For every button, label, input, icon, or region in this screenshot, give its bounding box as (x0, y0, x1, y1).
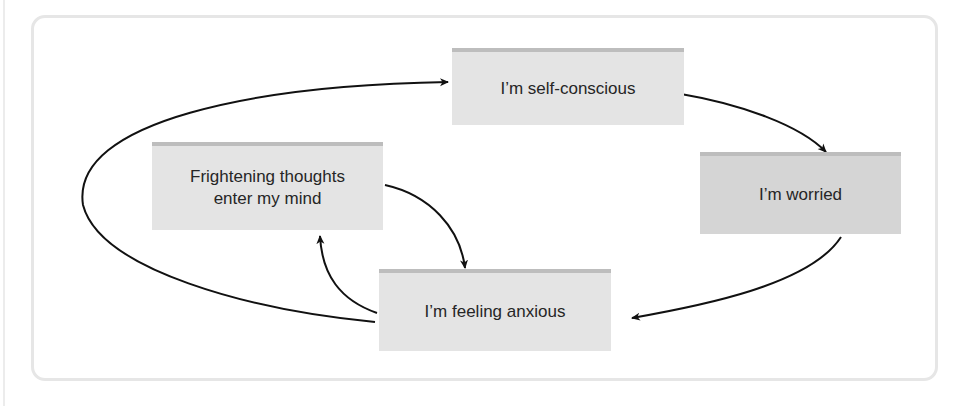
node-feeling-anxious: I’m feeling anxious (379, 269, 611, 351)
arrow-self-conscious-to-worried (681, 94, 826, 152)
arrow-worried-to-anxious (632, 237, 841, 318)
node-label: I’m worried (759, 184, 842, 206)
node-self-conscious: I’m self-conscious (452, 48, 684, 125)
node-label: I’m self-conscious (500, 78, 635, 100)
node-worried: I’m worried (700, 152, 901, 234)
arrow-frightening-to-anxious (385, 185, 465, 268)
node-label: Frightening thoughts enter my mind (174, 166, 361, 210)
node-label: I’m feeling anxious (425, 301, 566, 323)
arrow-anxious-to-frightening (320, 236, 377, 313)
node-frightening-thoughts: Frightening thoughts enter my mind (152, 142, 383, 230)
